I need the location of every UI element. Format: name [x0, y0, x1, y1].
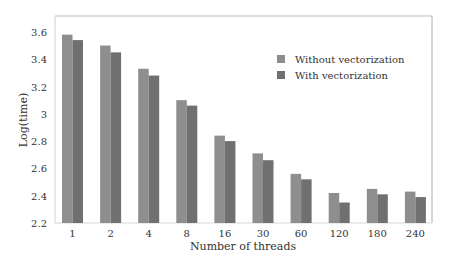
bar-without-vectorization: [214, 136, 225, 223]
bar-without-vectorization: [329, 193, 340, 223]
bar-with-vectorization: [377, 194, 388, 223]
x-tick-label: 4: [146, 228, 152, 239]
x-tick-label: 60: [295, 228, 308, 239]
bar-with-vectorization: [111, 52, 122, 223]
x-tick-label: 8: [184, 228, 190, 239]
bar-without-vectorization: [176, 100, 187, 223]
bar-with-vectorization: [263, 160, 274, 223]
bar-with-vectorization: [301, 179, 312, 223]
x-tick-label: 1: [69, 228, 75, 239]
x-tick-label: 240: [406, 228, 425, 239]
bar-without-vectorization: [138, 69, 149, 223]
y-tick-label: 3.6: [31, 27, 47, 38]
bar-group-16: [214, 136, 235, 223]
bar-group-240: [405, 192, 426, 223]
legend-swatch: [277, 55, 285, 63]
y-tick-label: 2.6: [31, 163, 47, 174]
y-tick-label: 3.4: [31, 54, 47, 65]
y-tick-label: 2.4: [31, 191, 47, 202]
legend-swatch: [277, 71, 285, 79]
bar-with-vectorization: [187, 106, 198, 223]
x-tick-label: 30: [257, 228, 270, 239]
y-tick-label: 3: [41, 109, 47, 120]
x-tick-label: 180: [368, 228, 387, 239]
bar-with-vectorization: [415, 197, 426, 223]
bar-without-vectorization: [367, 189, 378, 223]
y-tick-label: 2.2: [31, 218, 47, 229]
x-tick-label: 16: [219, 228, 232, 239]
x-tick-label: 2: [107, 228, 113, 239]
y-tick-label: 2.8: [31, 136, 47, 147]
legend-label: With vectorization: [295, 70, 389, 81]
x-axis-title: Number of threads: [190, 240, 297, 253]
bar-with-vectorization: [73, 40, 84, 223]
bar-group-60: [291, 174, 312, 223]
legend-label: Without vectorization: [295, 54, 405, 65]
bar-without-vectorization: [100, 46, 111, 223]
bar-without-vectorization: [62, 35, 73, 223]
bar-group-1: [62, 35, 83, 223]
bar-group-30: [253, 153, 274, 223]
bar-with-vectorization: [339, 203, 350, 223]
bar-with-vectorization: [225, 141, 236, 223]
bar-group-8: [176, 100, 197, 223]
bar-without-vectorization: [291, 174, 302, 223]
bar-without-vectorization: [253, 153, 264, 223]
legend: Without vectorizationWith vectorization: [277, 54, 405, 81]
bar-group-120: [329, 193, 350, 223]
y-axis-title: Log(time): [17, 93, 30, 147]
bar-group-180: [367, 189, 388, 223]
y-tick-label: 3.2: [31, 82, 47, 93]
bar-without-vectorization: [405, 192, 416, 223]
x-tick-label: 120: [330, 228, 349, 239]
bar-chart: 2.22.42.62.833.23.43.6 12481630601201802…: [0, 0, 451, 269]
y-axis: 2.22.42.62.833.23.43.6: [31, 27, 47, 229]
bar-with-vectorization: [149, 76, 160, 223]
bar-group-2: [100, 46, 121, 223]
bar-group-4: [138, 69, 159, 223]
x-axis: 1248163060120180240: [69, 228, 425, 239]
